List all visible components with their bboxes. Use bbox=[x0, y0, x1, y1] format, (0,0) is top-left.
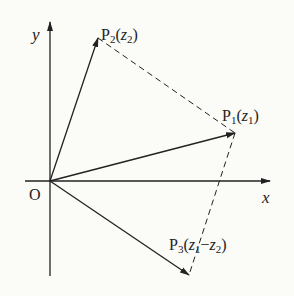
vector-op2 bbox=[50, 38, 98, 181]
vector-op1 bbox=[50, 133, 235, 181]
point-label-p3: P3(z1−z2) bbox=[169, 236, 227, 255]
dashed-p2-p1 bbox=[98, 38, 235, 133]
point-label-p1: P1(z1) bbox=[222, 107, 259, 126]
vector-op3 bbox=[50, 181, 189, 275]
y-axis-label: y bbox=[30, 25, 40, 44]
x-axis-label: x bbox=[261, 188, 270, 207]
point-label-p2: P2(z2) bbox=[101, 26, 138, 45]
origin-label: O bbox=[29, 186, 41, 203]
complex-plane-diagram: y x O P2(z2) P1(z1) P3(z1−z2) bbox=[0, 0, 294, 296]
